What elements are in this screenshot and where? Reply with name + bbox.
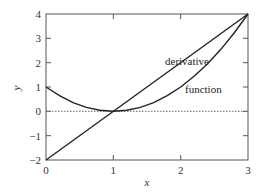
x-tick-2: 2 (178, 164, 184, 176)
y-tick-m2: −2 (29, 154, 41, 166)
x-axis-label: x (144, 176, 150, 188)
x-tick-1: 1 (111, 164, 117, 176)
y-tick-m1: −1 (29, 130, 41, 142)
chart: 0 1 2 3 −2 −1 0 1 2 3 4 x y derivative f… (0, 0, 260, 192)
y-tick-3: 3 (36, 32, 42, 44)
function-annotation: function (185, 83, 222, 95)
y-tick-2: 2 (36, 57, 42, 69)
y-tick-4: 4 (36, 8, 42, 20)
y-tick-0: 0 (36, 105, 42, 117)
x-tick-0: 0 (43, 164, 49, 176)
function-curve (46, 14, 248, 111)
y-tick-1: 1 (36, 81, 42, 93)
x-tick-3: 3 (245, 164, 251, 176)
y-axis-label: y (10, 85, 22, 91)
derivative-annotation: derivative (165, 55, 209, 67)
